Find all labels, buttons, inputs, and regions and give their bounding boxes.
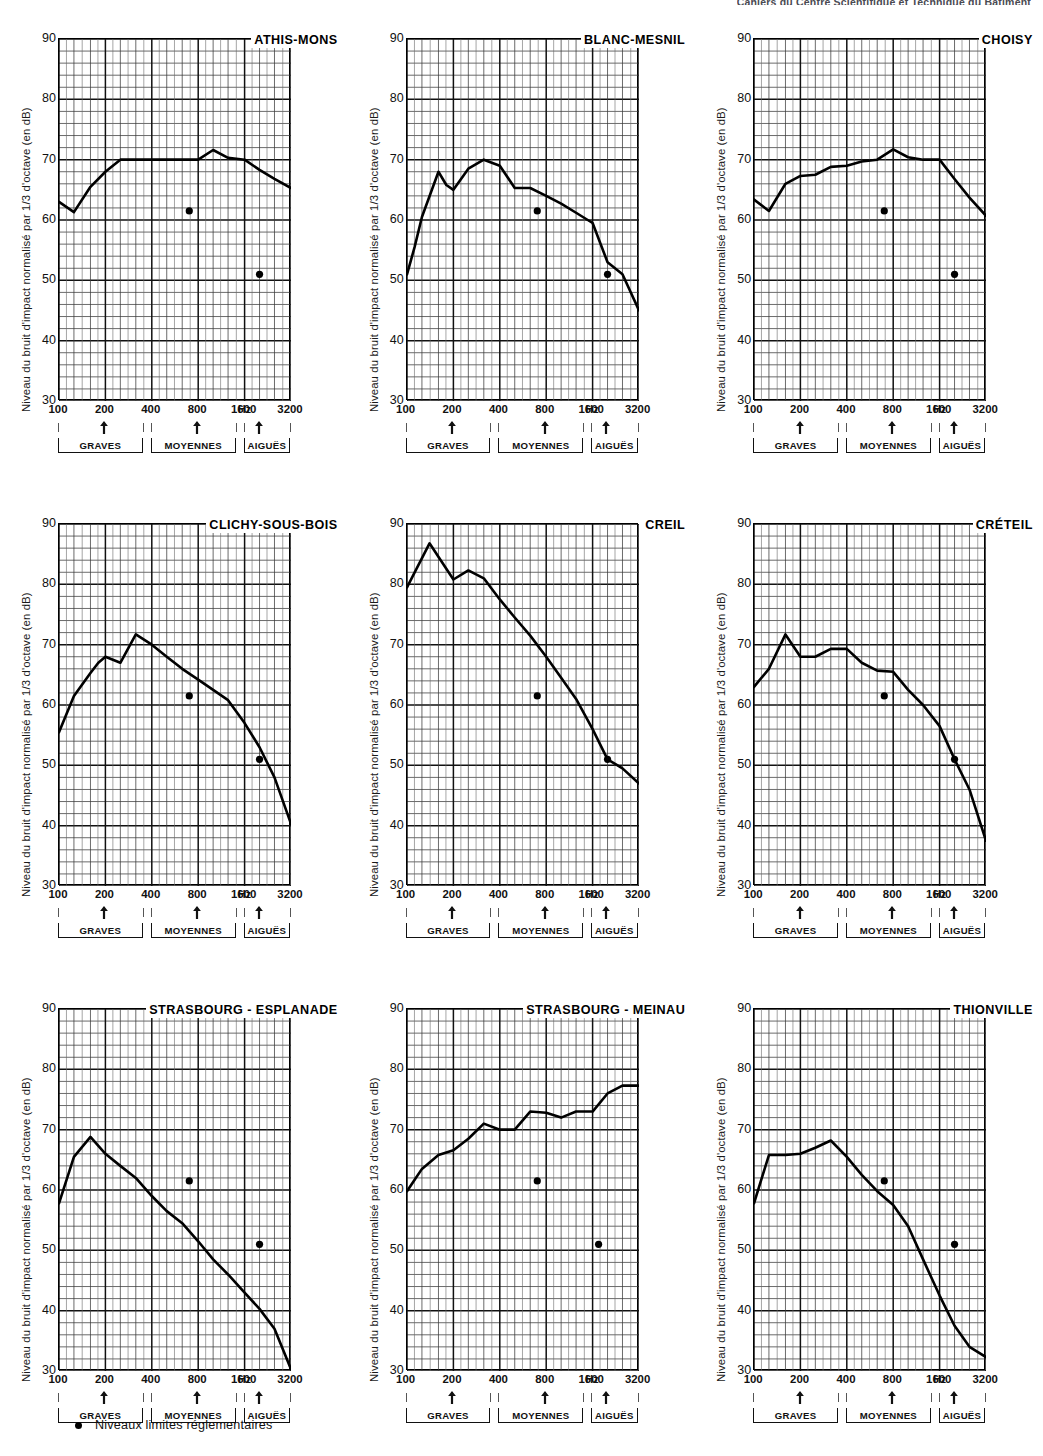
chart-title: ATHIS-MONS [251, 32, 340, 48]
band-tick-mark [939, 908, 940, 917]
band-tick-mark [753, 423, 754, 432]
x-axis-ticks: 10020040080016003200 [406, 403, 638, 419]
band-tick-mark [58, 908, 59, 917]
band-tick-mark [583, 1393, 584, 1402]
band-arrow-icon [888, 1391, 897, 1404]
band-label: GRAVES [78, 440, 124, 451]
x-tick-label: 3200 [973, 888, 998, 900]
chart-panel: Niveau du bruit d'impact normalisé par 1… [348, 18, 696, 503]
x-tick-label: 400 [141, 403, 160, 415]
band-tick-mark [638, 1393, 639, 1402]
band-arrow-icon [100, 906, 109, 919]
band-tick-mark [985, 423, 986, 432]
frequency-bands: GRAVESMOYENNESAIGUËS [58, 906, 296, 948]
band-tick-mark [638, 423, 639, 432]
band-label: MOYENNES [858, 925, 919, 936]
plot-area [58, 38, 290, 400]
frequency-bands: GRAVESMOYENNESAIGUËS [753, 906, 991, 948]
y-tick-label: 40 [378, 1304, 404, 1316]
y-tick-label: 70 [30, 638, 56, 650]
y-tick-label: 40 [30, 1304, 56, 1316]
x-tick-label: 100 [48, 1373, 67, 1385]
band-tick-mark [931, 1393, 932, 1402]
x-axis-unit: Hz [933, 888, 946, 900]
y-tick-label: 60 [30, 213, 56, 225]
y-tick-label: 50 [378, 1243, 404, 1255]
x-tick-label: 400 [836, 888, 855, 900]
y-tick-label: 60 [30, 698, 56, 710]
band-arrow-icon [193, 906, 202, 919]
band-arrow-icon [949, 1391, 958, 1404]
band-label: GRAVES [773, 1410, 819, 1421]
frequency-bands: GRAVESMOYENNESAIGUËS [406, 421, 644, 463]
y-tick-label: 60 [378, 698, 404, 710]
y-tick-label: 40 [30, 334, 56, 346]
band-label: GRAVES [773, 925, 819, 936]
band-arrow-icon [193, 1391, 202, 1404]
plot-area [753, 38, 985, 400]
chart-row: Niveau du bruit d'impact normalisé par 1… [0, 988, 1043, 1456]
y-tick-label: 50 [725, 1243, 751, 1255]
legend-label: Niveaux limites réglementaires [95, 1418, 272, 1432]
band-tick-mark [931, 423, 932, 432]
y-axis-ticks: 90807060504030 [374, 988, 404, 1368]
x-tick-label: 100 [396, 1373, 415, 1385]
x-tick-label: 800 [188, 888, 207, 900]
band-arrow-icon [949, 421, 958, 434]
y-tick-label: 80 [30, 577, 56, 589]
band-arrow-icon [795, 906, 804, 919]
frequency-bands: GRAVESMOYENNESAIGUËS [753, 421, 991, 463]
x-tick-label: 400 [141, 1373, 160, 1385]
band-arrow-icon [795, 1391, 804, 1404]
band-label: GRAVES [425, 925, 471, 936]
band-arrow-icon [100, 1391, 109, 1404]
y-tick-label: 90 [30, 1002, 56, 1014]
chart-row: Niveau du bruit d'impact normalisé par 1… [0, 18, 1043, 503]
band-arrow-icon [447, 1391, 456, 1404]
x-tick-label: 800 [535, 403, 554, 415]
y-tick-label: 50 [378, 758, 404, 770]
plot-area [58, 1008, 290, 1370]
band-label: AIGUËS [246, 440, 289, 451]
band-label: GRAVES [425, 440, 471, 451]
y-tick-label: 50 [725, 758, 751, 770]
frequency-bands: GRAVESMOYENNESAIGUËS [406, 1391, 644, 1433]
y-tick-label: 90 [378, 1002, 404, 1014]
y-tick-label: 60 [725, 213, 751, 225]
band-tick-mark [583, 908, 584, 917]
band-tick-mark [931, 908, 932, 917]
x-axis-ticks: 10020040080016003200 [406, 888, 638, 904]
chart-panel: Niveau du bruit d'impact normalisé par 1… [348, 988, 696, 1456]
chart-title: CRÉTEIL [973, 517, 1036, 533]
y-tick-label: 70 [30, 1123, 56, 1135]
plot-area [406, 1008, 638, 1370]
y-tick-label: 50 [30, 758, 56, 770]
y-tick-label: 90 [725, 1002, 751, 1014]
y-tick-label: 80 [378, 1062, 404, 1074]
band-label: MOYENNES [510, 440, 571, 451]
band-tick-mark [236, 1393, 237, 1402]
y-tick-label: 70 [725, 638, 751, 650]
y-axis-ticks: 90807060504030 [374, 503, 404, 883]
x-tick-label: 400 [836, 1373, 855, 1385]
band-arrow-icon [193, 421, 202, 434]
y-tick-label: 40 [378, 819, 404, 831]
x-axis-unit: Hz [238, 888, 251, 900]
chart-title: BLANC-MESNIL [581, 32, 688, 48]
chart-panel: Niveau du bruit d'impact normalisé par 1… [695, 988, 1043, 1456]
x-tick-label: 800 [883, 888, 902, 900]
y-tick-label: 70 [30, 153, 56, 165]
chart-title: THIONVILLE [950, 1002, 1035, 1018]
y-tick-label: 80 [725, 92, 751, 104]
y-tick-label: 80 [30, 92, 56, 104]
band-tick-mark [290, 1393, 291, 1402]
legend: Niveaux limites réglementaires [75, 1418, 272, 1432]
page-header: Cahiers du Centre Scientifique et Techni… [737, 0, 1031, 5]
band-arrow-icon [254, 906, 263, 919]
band-tick-mark [143, 908, 144, 917]
chart-panel: Niveau du bruit d'impact normalisé par 1… [695, 503, 1043, 988]
x-tick-label: 3200 [973, 1373, 998, 1385]
x-tick-label: 200 [442, 1373, 461, 1385]
frequency-bands: GRAVESMOYENNESAIGUËS [58, 421, 296, 463]
band-tick-mark [846, 423, 847, 432]
